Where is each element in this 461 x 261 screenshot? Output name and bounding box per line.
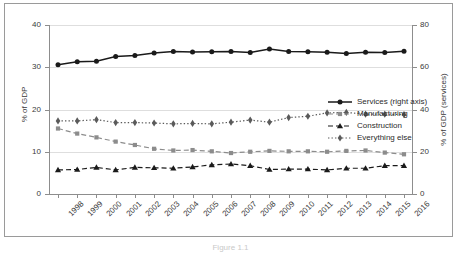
legend-marker-circle-icon [327,96,353,108]
legend-label: Everything else [357,133,412,142]
data-point [56,117,61,124]
right-axis-tick-label: 20 [420,148,429,156]
legend-label: Services (right axis) [357,97,427,106]
right-axis-tick-label: 80 [420,21,429,29]
data-point [248,50,253,55]
data-point [190,50,195,55]
data-point [114,140,118,144]
data-point [152,119,157,126]
right-axis-tick [413,152,417,153]
figure-container: % of GDP % of GDP (services) 010203040 0… [0,0,461,261]
right-axis-tick-label: 60 [420,63,429,71]
data-point [363,50,368,55]
data-point [132,53,137,58]
data-point [209,49,214,54]
data-point [171,49,176,54]
data-point [75,131,79,135]
data-point [363,148,367,152]
data-point [344,149,348,153]
data-point [75,59,80,64]
plot-area: 010203040 020406080 19981999200020012002… [49,25,413,195]
data-point [132,164,138,169]
legend-marker-diamond-icon [327,132,353,144]
data-point [210,149,214,153]
data-point [305,49,310,54]
data-point [171,120,176,127]
data-point [190,120,195,127]
data-point [248,116,253,123]
data-point [247,163,253,168]
data-point [229,151,233,155]
data-point [209,120,214,127]
data-point [94,135,98,139]
data-point [152,147,156,151]
legend-label: Construction [357,121,402,130]
data-point [383,150,387,154]
data-point [306,113,311,120]
data-point [402,49,407,54]
series-construction [55,161,407,172]
legend-item[interactable]: Construction [327,120,461,132]
data-point [306,149,310,153]
data-point [248,150,252,154]
legend-marker-triangle-icon [327,120,353,132]
data-point [229,119,234,126]
data-point [267,119,272,126]
data-point [267,47,272,52]
left-axis-tick-label: 0 [23,190,41,198]
data-point [382,50,387,55]
right-axis-tick [413,25,417,26]
data-point [152,51,157,56]
data-point [133,119,138,126]
chart-legend: Services (right axis)ManufacturingConstr… [327,96,461,144]
data-point [286,49,291,54]
right-axis-tick [413,67,417,68]
data-point [94,59,99,64]
data-point [94,116,99,123]
legend-marker-square-icon [327,108,353,120]
data-point [402,152,406,156]
data-point [229,49,234,54]
data-point [113,119,118,126]
left-axis-tick-label: 40 [23,21,41,29]
data-point [325,50,330,55]
legend-item[interactable]: Manufacturing [327,108,461,120]
data-point [325,150,329,154]
figure-caption: Figure 1.1 [0,243,461,252]
left-axis-tick-label: 30 [23,63,41,71]
right-axis-tick [413,194,417,195]
left-axis-tick-label: 20 [23,106,41,114]
data-point [171,148,175,152]
data-point [133,143,137,147]
data-point [190,148,194,152]
legend-item[interactable]: Services (right axis) [327,96,461,108]
y-axis-label-left: % of GDP [20,75,29,135]
data-point [56,62,61,67]
data-point [75,117,80,124]
right-axis-tick-label: 0 [420,190,424,198]
legend-label: Manufacturing [357,109,408,118]
series-services-right-axis [56,47,407,68]
data-point [113,54,118,59]
data-point [344,51,349,56]
legend-item[interactable]: Everything else [327,132,461,144]
data-point [267,149,271,153]
data-point [56,126,60,130]
left-axis-tick-label: 10 [23,148,41,156]
data-point [93,164,99,169]
data-point [286,114,291,121]
data-point [287,149,291,153]
